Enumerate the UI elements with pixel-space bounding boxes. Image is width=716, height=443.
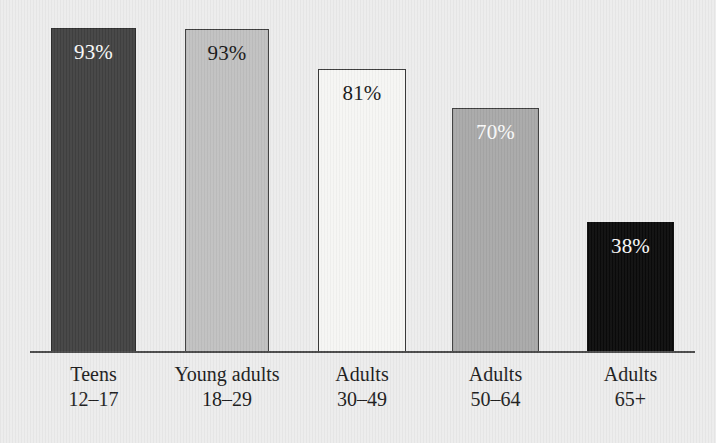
- x-axis-label-young-adults: Young adults 18–29: [152, 362, 302, 412]
- x-axis-label-teens: Teens 12–17: [28, 362, 159, 412]
- category-range: 12–17: [28, 387, 159, 412]
- bar-adults-65-plus: 38%: [587, 222, 674, 352]
- category-range: 18–29: [152, 387, 302, 412]
- category-range: 65+: [565, 387, 696, 412]
- bar-teens-12-17: 93%: [51, 28, 136, 352]
- bar-young-adults-18-29: 93%: [185, 29, 269, 352]
- category-name: Adults: [297, 362, 427, 387]
- x-axis-baseline: [30, 351, 695, 353]
- category-name: Adults: [565, 362, 696, 387]
- bar-value-label: 93%: [186, 43, 268, 64]
- category-range: 30–49: [297, 387, 427, 412]
- category-name: Young adults: [152, 362, 302, 387]
- bar-adults-30-49: 81%: [318, 69, 406, 352]
- x-axis-label-adults-65-plus: Adults 65+: [565, 362, 696, 412]
- bar-value-label: 38%: [588, 236, 673, 257]
- bar-chart: 93% 93% 81% 70% 38% Teens 12–17 Young ad…: [0, 0, 716, 443]
- bar-value-label: 70%: [453, 122, 538, 143]
- category-range: 50–64: [430, 387, 561, 412]
- bar-value-label: 81%: [319, 83, 405, 104]
- x-axis-label-adults-50-64: Adults 50–64: [430, 362, 561, 412]
- category-name: Teens: [28, 362, 159, 387]
- plot-area: 93% 93% 81% 70% 38% Teens 12–17 Young ad…: [0, 0, 716, 443]
- category-name: Adults: [430, 362, 561, 387]
- x-axis-label-adults-30-49: Adults 30–49: [297, 362, 427, 412]
- bar-value-label: 93%: [52, 42, 135, 63]
- bar-adults-50-64: 70%: [452, 108, 539, 352]
